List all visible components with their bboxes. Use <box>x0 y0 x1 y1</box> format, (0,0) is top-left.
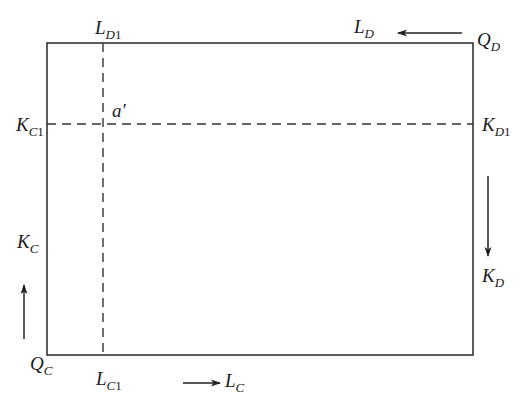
label-K-D: KD <box>481 265 505 290</box>
label-L-D1: LD1 <box>94 17 121 42</box>
label-origin-Q-D: QD <box>477 29 501 54</box>
label-L-D: LD <box>353 16 375 41</box>
label-point-a-prime: a′ <box>112 100 127 121</box>
label-L-C: LC <box>224 370 245 395</box>
label-L-C1: LC1 <box>95 368 122 393</box>
label-K-C: KC <box>16 231 39 256</box>
label-origin-Q-C: QC <box>30 353 53 378</box>
label-K-C1: KC1 <box>15 114 44 139</box>
edgeworth-box-diagram: LD1 LD QD KC1 a′ KD1 KC KD QC LC1 LC <box>0 0 521 412</box>
label-K-D1: KD1 <box>481 114 511 139</box>
box-outline <box>47 43 473 355</box>
